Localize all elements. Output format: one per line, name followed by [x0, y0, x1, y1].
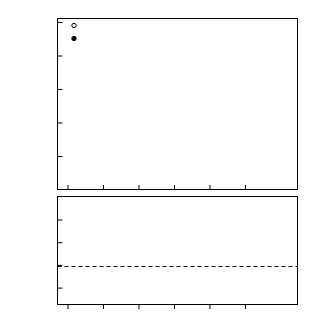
bottom-panel-yticks: [58, 220, 63, 288]
top-panel: [58, 19, 298, 190]
legend: [72, 23, 76, 40]
legend-marker-barren-area: [72, 36, 76, 40]
chart-svg: [0, 0, 311, 328]
top-panel-xticks: [68, 185, 246, 190]
top-panel-frame: [58, 19, 298, 190]
bottom-panel-xticks: [68, 305, 246, 310]
figure-container: [0, 0, 311, 328]
bottom-panel-frame: [58, 197, 298, 305]
bottom-panel: [58, 197, 298, 310]
top-panel-yticks: [58, 23, 63, 157]
legend-marker-loam-soil: [72, 23, 76, 27]
